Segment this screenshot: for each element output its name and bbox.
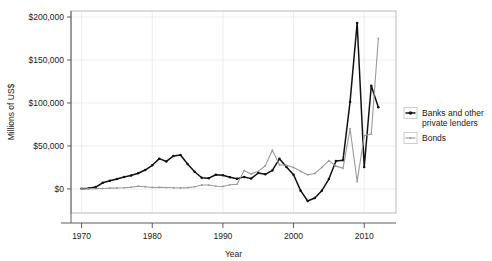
data-point-marker bbox=[300, 170, 302, 172]
y-axis bbox=[67, 11, 71, 223]
data-point-marker bbox=[377, 106, 380, 109]
data-point-marker bbox=[229, 176, 232, 179]
data-point-marker bbox=[130, 174, 133, 177]
data-point-marker bbox=[187, 187, 189, 189]
data-point-marker bbox=[172, 155, 175, 158]
data-point-marker bbox=[271, 149, 273, 151]
line-chart-canvas: $0$50,000$100,000$150,000$200,0001970198… bbox=[0, 0, 492, 261]
data-point-marker bbox=[102, 181, 105, 184]
grid-lines bbox=[71, 11, 396, 213]
legend-label: Bonds bbox=[422, 133, 446, 143]
data-point-marker bbox=[88, 188, 90, 190]
data-point-marker bbox=[137, 185, 139, 187]
data-point-marker bbox=[236, 183, 238, 185]
data-point-marker bbox=[201, 184, 203, 186]
data-point-marker bbox=[215, 185, 217, 187]
data-point-marker bbox=[180, 187, 182, 189]
data-point-marker bbox=[342, 167, 344, 169]
data-point-marker bbox=[123, 176, 126, 179]
x-axis bbox=[61, 223, 396, 228]
data-point-marker bbox=[165, 160, 168, 163]
data-point-marker bbox=[264, 173, 267, 176]
data-point-marker bbox=[193, 170, 196, 173]
legend-label-line2: private lenders bbox=[422, 118, 478, 128]
data-point-marker bbox=[130, 186, 132, 188]
chart-legend bbox=[404, 108, 417, 144]
data-point-marker bbox=[194, 186, 196, 188]
data-point-marker bbox=[243, 176, 246, 179]
data-point-marker bbox=[335, 165, 337, 167]
y-axis-tick-label: $50,000 bbox=[33, 141, 64, 151]
y-axis-tick-label: $150,000 bbox=[29, 55, 65, 65]
data-point-marker bbox=[370, 133, 372, 135]
data-point-marker bbox=[116, 178, 119, 181]
x-axis-title: Year bbox=[225, 249, 242, 259]
data-point-marker bbox=[208, 177, 211, 180]
data-point-marker bbox=[306, 200, 309, 203]
data-point-marker bbox=[158, 157, 161, 160]
data-point-marker bbox=[144, 186, 146, 188]
data-point-marker bbox=[370, 85, 373, 88]
data-point-marker bbox=[116, 187, 118, 189]
data-point-marker bbox=[186, 163, 189, 166]
data-point-marker bbox=[356, 22, 359, 25]
x-axis-tick-label: 2000 bbox=[284, 231, 303, 241]
data-point-marker bbox=[144, 169, 147, 172]
data-point-marker bbox=[200, 177, 203, 180]
data-point-marker bbox=[151, 164, 154, 167]
data-point-marker bbox=[179, 154, 182, 157]
data-point-marker bbox=[215, 174, 218, 177]
legend-label: Banks and other bbox=[422, 108, 484, 118]
data-point-marker bbox=[229, 184, 231, 186]
data-point-marker bbox=[250, 177, 253, 180]
data-point-marker bbox=[349, 128, 351, 130]
legend-key-marker bbox=[409, 137, 411, 139]
data-point-marker bbox=[363, 135, 365, 137]
data-point-marker bbox=[363, 166, 366, 169]
y-axis-title: Millions of US$ bbox=[6, 83, 16, 140]
series-banks-private-lenders bbox=[80, 22, 379, 202]
data-point-marker bbox=[236, 178, 239, 181]
data-point-marker bbox=[250, 173, 252, 175]
series-line bbox=[82, 23, 379, 201]
data-point-marker bbox=[264, 165, 266, 167]
data-point-marker bbox=[158, 186, 160, 188]
data-point-marker bbox=[293, 167, 295, 169]
data-point-marker bbox=[271, 169, 274, 172]
data-point-marker bbox=[257, 170, 259, 172]
data-point-marker bbox=[208, 184, 210, 186]
data-series-group bbox=[80, 22, 379, 202]
y-axis-tick-label: $0 bbox=[55, 184, 65, 194]
data-point-marker bbox=[377, 38, 379, 40]
data-point-marker bbox=[299, 189, 302, 192]
y-axis-tick-label: $100,000 bbox=[29, 98, 65, 108]
data-point-marker bbox=[137, 172, 140, 175]
data-point-marker bbox=[123, 187, 125, 189]
x-axis-tick-label: 1970 bbox=[72, 231, 91, 241]
data-point-marker bbox=[292, 174, 295, 177]
data-point-marker bbox=[222, 186, 224, 188]
data-point-marker bbox=[321, 167, 323, 169]
data-point-marker bbox=[165, 187, 167, 189]
data-point-marker bbox=[335, 160, 338, 163]
plot-frame bbox=[71, 11, 396, 213]
data-point-marker bbox=[328, 160, 330, 162]
chart-figure: $0$50,000$100,000$150,000$200,0001970198… bbox=[0, 0, 492, 261]
data-point-marker bbox=[95, 188, 97, 190]
data-point-marker bbox=[328, 178, 331, 181]
data-point-marker bbox=[222, 174, 225, 177]
x-axis-tick-label: 1980 bbox=[143, 231, 162, 241]
data-point-marker bbox=[279, 164, 281, 166]
data-point-marker bbox=[314, 173, 316, 175]
data-point-marker bbox=[356, 181, 358, 183]
data-point-marker bbox=[81, 188, 83, 190]
data-point-marker bbox=[321, 189, 324, 192]
data-point-marker bbox=[173, 187, 175, 189]
x-axis-tick-label: 1990 bbox=[213, 231, 232, 241]
legend-key-marker bbox=[409, 111, 412, 114]
series-bonds bbox=[81, 38, 380, 190]
data-point-marker bbox=[278, 158, 281, 161]
data-point-marker bbox=[109, 187, 111, 189]
data-point-marker bbox=[243, 170, 245, 172]
data-point-marker bbox=[109, 179, 112, 182]
